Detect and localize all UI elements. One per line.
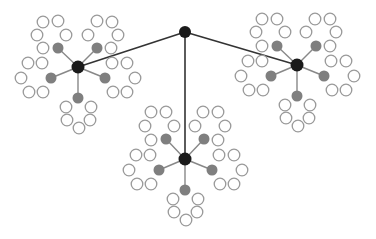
- leaf-node: [61, 114, 73, 126]
- leaf-node: [52, 15, 64, 27]
- leaf-node: [168, 120, 180, 132]
- leaf-node: [22, 57, 34, 69]
- leaf-node: [325, 55, 337, 67]
- leaf-node: [31, 29, 43, 41]
- leaf-node: [257, 84, 269, 96]
- hub-node: [291, 59, 304, 72]
- branch-node: [311, 41, 322, 52]
- branch-node: [292, 91, 303, 102]
- leaf-node: [131, 178, 143, 190]
- leaf-node: [228, 178, 240, 190]
- leaf-node: [192, 193, 204, 205]
- branch-node: [53, 43, 64, 54]
- leaf-node: [330, 26, 342, 38]
- leaf-node: [37, 42, 49, 54]
- leaf-node: [256, 55, 268, 67]
- leaf-node: [271, 13, 283, 25]
- branch-node: [161, 134, 172, 145]
- leaf-node: [340, 84, 352, 96]
- leaf-node: [256, 40, 268, 52]
- leaf-node: [168, 206, 180, 218]
- leaf-node: [324, 13, 336, 25]
- leaf-node: [60, 101, 72, 113]
- leaf-node: [91, 15, 103, 27]
- leaf-node: [139, 120, 151, 132]
- leaf-node: [279, 99, 291, 111]
- leaf-node: [37, 86, 49, 98]
- leaf-node: [107, 86, 119, 98]
- branch-node: [73, 93, 84, 104]
- leaf-node: [236, 164, 248, 176]
- leaf-node: [242, 55, 254, 67]
- leaf-node: [324, 40, 336, 52]
- leaf-node: [213, 149, 225, 161]
- leaf-node: [167, 193, 179, 205]
- leaf-node: [123, 164, 135, 176]
- leaf-node: [73, 122, 85, 134]
- tree-diagram: [0, 0, 376, 239]
- leaf-node: [191, 206, 203, 218]
- leaf-node: [250, 26, 262, 38]
- leaf-node: [300, 26, 312, 38]
- leaf-node: [105, 42, 117, 54]
- branch-node: [100, 73, 111, 84]
- branch-node: [154, 165, 165, 176]
- branch-node: [199, 134, 210, 145]
- branch-node: [46, 73, 57, 84]
- branch-node: [266, 71, 277, 82]
- leaf-node: [106, 16, 118, 28]
- branch-node: [180, 185, 191, 196]
- leaf-node: [219, 120, 231, 132]
- leaf-node: [145, 178, 157, 190]
- leaf-node: [121, 86, 133, 98]
- leaf-node: [145, 134, 157, 146]
- leaf-node: [121, 57, 133, 69]
- leaf-node: [106, 57, 118, 69]
- leaf-node: [326, 84, 338, 96]
- leaf-node: [243, 84, 255, 96]
- leaf-node: [256, 13, 268, 25]
- leaf-node: [144, 149, 156, 161]
- branch-node: [92, 43, 103, 54]
- leaf-node: [84, 114, 96, 126]
- hub-node: [72, 61, 85, 74]
- leaf-node: [197, 106, 209, 118]
- tree-diagram-svg: [0, 0, 376, 239]
- leaf-node: [280, 112, 292, 124]
- leaf-node: [214, 178, 226, 190]
- leaf-node: [15, 72, 27, 84]
- hub-node: [179, 153, 192, 166]
- root-node: [179, 26, 191, 38]
- leaf-node: [180, 214, 192, 226]
- branch-node: [207, 165, 218, 176]
- leaf-node: [130, 149, 142, 161]
- leaf-node: [23, 86, 35, 98]
- leaf-node: [189, 120, 201, 132]
- branch-node: [319, 71, 330, 82]
- branch-node: [272, 41, 283, 52]
- leaf-node: [292, 120, 304, 132]
- leaf-node: [36, 57, 48, 69]
- leaf-node: [60, 29, 72, 41]
- leaf-node: [309, 13, 321, 25]
- leaf-node: [37, 16, 49, 28]
- leaf-node: [304, 99, 316, 111]
- leaf-node: [228, 149, 240, 161]
- leaf-node: [340, 55, 352, 67]
- leaf-node: [212, 134, 224, 146]
- leaf-node: [160, 106, 172, 118]
- leaf-node: [112, 29, 124, 41]
- leaf-node: [212, 106, 224, 118]
- leaf-node: [348, 70, 360, 82]
- leaf-node: [82, 29, 94, 41]
- leaf-node: [145, 106, 157, 118]
- leaf-node: [235, 70, 247, 82]
- leaf-node: [85, 101, 97, 113]
- leaf-node: [279, 26, 291, 38]
- leaf-node: [129, 72, 141, 84]
- leaf-node: [303, 112, 315, 124]
